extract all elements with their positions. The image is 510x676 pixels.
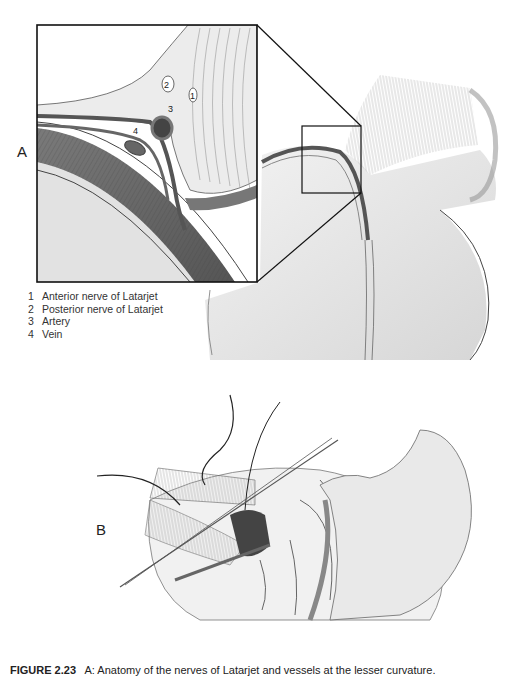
legend-text: Posterior nerve of Latarjet bbox=[42, 303, 163, 316]
legend-text: Artery bbox=[42, 315, 70, 328]
callout-3-label: 3 bbox=[168, 104, 173, 114]
callout-4-label: 4 bbox=[133, 126, 138, 136]
figure-number: FIGURE 2.23 bbox=[10, 664, 76, 676]
legend-number: 3 bbox=[28, 315, 34, 328]
legend-item: 4 Vein bbox=[28, 328, 163, 341]
panel-b-label: B bbox=[96, 521, 106, 538]
caption-text: A: Anatomy of the nerves of Latarjet and… bbox=[84, 664, 435, 676]
panel-a-label: A bbox=[17, 143, 27, 160]
panel-a-inset bbox=[37, 25, 257, 282]
legend-item: 2 Posterior nerve of Latarjet bbox=[28, 303, 163, 316]
legend-text: Anterior nerve of Latarjet bbox=[42, 290, 158, 303]
panel-b-surgical-drawing bbox=[97, 395, 471, 620]
legend-number: 1 bbox=[28, 290, 34, 303]
legend-item: 1 Anterior nerve of Latarjet bbox=[28, 290, 163, 303]
legend-number: 4 bbox=[28, 328, 34, 341]
legend: 1 Anterior nerve of Latarjet 2 Posterior… bbox=[28, 290, 163, 340]
legend-item: 3 Artery bbox=[28, 315, 163, 328]
legend-number: 2 bbox=[28, 303, 34, 316]
figure-caption: FIGURE 2.23 A: Anatomy of the nerves of … bbox=[10, 664, 435, 676]
legend-text: Vein bbox=[42, 328, 62, 341]
callout-1-label: 1 bbox=[190, 91, 195, 101]
callout-2-label: 2 bbox=[164, 80, 169, 90]
